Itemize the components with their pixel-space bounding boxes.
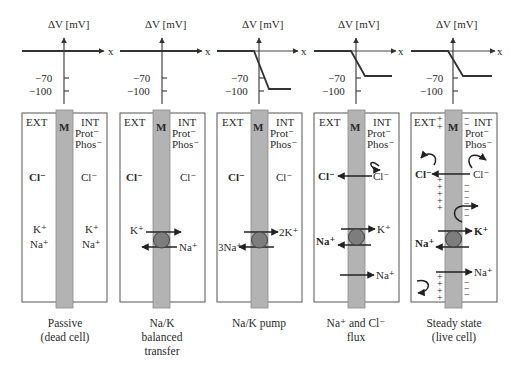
na-k-pump [252,232,268,248]
membrane-label: M [59,121,70,133]
panel-passive: ΔV [mV] −70 −100 EXT M INT Prot⁻ Phos⁻ C… [22,18,107,344]
na-ext-label: Na⁺ [415,237,434,249]
caption-line-2: flux [347,331,366,343]
panel-steady-state: ΔV [mV] x −70 −100 EXT M INT Prot⁻ Phos⁻… [411,18,503,344]
membrane [348,110,365,308]
y-axis-label: ΔV [mV] [145,18,186,30]
int-cl-label: Cl⁻ [473,168,489,180]
svg-text:−: − [464,289,470,300]
y-axis-label: ΔV [mV] [338,18,379,30]
potential-curve [314,51,392,76]
caption-line-1: Na/K pump [232,317,286,330]
caption-line-1: Passive [48,317,83,329]
k-label: K⁺ [130,224,144,236]
membrane [153,110,170,308]
na-ext-label: Na⁺ [316,235,335,247]
na-k-pump [349,229,365,245]
tick-minus-70: −70 [133,72,151,84]
na-label: Na⁺ [179,241,198,253]
tick-minus-100: −100 [29,85,52,97]
ext-cl-label: Cl⁻ [228,171,245,183]
ext-label: EXT [319,116,341,128]
phos-label: Phos⁻ [172,138,199,150]
k-label: K⁺ [474,225,489,237]
potential-graph: ΔV [mV] x −70 −100 [217,18,307,104]
tick-minus-100: −100 [420,85,443,97]
tick-minus-100: −100 [322,85,345,97]
2k-label: 2K⁺ [279,226,298,238]
membrane-label: M [156,121,167,133]
caption-line-2: (dead cell) [41,331,90,344]
x-axis-label: x [301,45,307,57]
panel-flux: ΔV [mV] x −70 −100 EXT M INT Prot⁻ Phos⁻… [314,18,404,343]
membrane [445,110,462,308]
membrane-label: M [350,121,361,133]
phos-label: Phos⁻ [270,138,297,150]
caption-line-1: Steady state [426,317,481,330]
na-k-pump [446,231,462,247]
phos-label: Phos⁻ [75,138,102,150]
ext-label: EXT [124,116,146,128]
panel-balanced: ΔV [mV] x x −70 −100 EXT M INT Prot⁻ Pho… [108,18,211,357]
ext-na-label: Na⁺ [30,238,49,250]
potential-curve [411,51,492,76]
ext-cl-label: Cl⁻ [318,170,335,182]
int-cl-label: Cl⁻ [81,171,97,183]
y-axis-label: ΔV [mV] [242,18,283,30]
phos-label: Phos⁻ [367,138,394,150]
y-axis-label: ΔV [mV] [436,18,477,30]
caption-line-2: balanced [142,331,183,343]
tick-minus-100: −100 [127,85,150,97]
ext-k-label: K⁺ [33,223,47,235]
ext-cl-label: Cl⁻ [29,171,46,183]
tick-minus-70: −70 [231,72,249,84]
na-leak-label: Na⁺ [474,266,493,278]
caption-line-1: Na/K [150,317,176,329]
potential-graph: ΔV [mV] x −70 −100 [411,18,503,104]
membrane [251,110,268,308]
ext-label: EXT [414,116,436,128]
x-axis-label: x [398,45,404,57]
svg-text:+: + [437,121,443,132]
svg-text:+: + [437,202,443,213]
phos-label: Phos⁻ [465,138,492,150]
k-label: K⁺ [377,223,391,235]
ext-cl-label: Cl⁻ [126,171,143,183]
potential-curve [217,51,291,89]
membrane [56,110,73,308]
x-axis-label: x [205,45,211,57]
membrane-label: M [448,121,459,133]
3na-label: 3Na⁺ [218,241,242,253]
int-k-label: K⁺ [85,223,99,235]
tick-minus-100: −100 [225,85,248,97]
int-cl-label: Cl⁻ [276,171,292,183]
svg-text:−: − [464,119,470,130]
membrane-potential-figure: ΔV [mV] −70 −100 EXT M INT Prot⁻ Phos⁻ C… [0,0,522,367]
potential-graph: ΔV [mV] x −70 −100 [314,18,404,104]
tick-minus-70: −70 [328,72,346,84]
int-na-label: Na⁺ [82,238,101,250]
ext-cl-label: Cl⁻ [415,168,432,180]
tick-minus-70: −70 [426,72,444,84]
na-leak-label: Na⁺ [376,269,395,281]
potential-graph: ΔV [mV] −70 −100 [22,18,104,104]
svg-text:−: − [464,210,470,221]
int-cl-label: Cl⁻ [373,170,389,182]
tick-minus-70: −70 [35,72,53,84]
x-axis-label: x [497,45,503,57]
potential-graph: ΔV [mV] x x −70 −100 [108,18,211,104]
x-axis-label: x [108,45,114,57]
y-axis-label: ΔV [mV] [48,18,89,30]
caption-line-2: (live cell) [432,331,477,344]
panel-pump: ΔV [mV] x −70 −100 EXT M INT Prot⁻ Phos⁻… [217,18,307,330]
int-cl-label: Cl⁻ [180,171,196,183]
svg-text:+: + [437,292,443,303]
caption-line-1: Na⁺ and Cl⁻ [327,317,386,329]
ext-label: EXT [26,116,48,128]
membrane-label: M [253,121,264,133]
na-k-pump [154,232,170,248]
ext-label: EXT [222,116,244,128]
caption-line-3: transfer [144,345,179,357]
